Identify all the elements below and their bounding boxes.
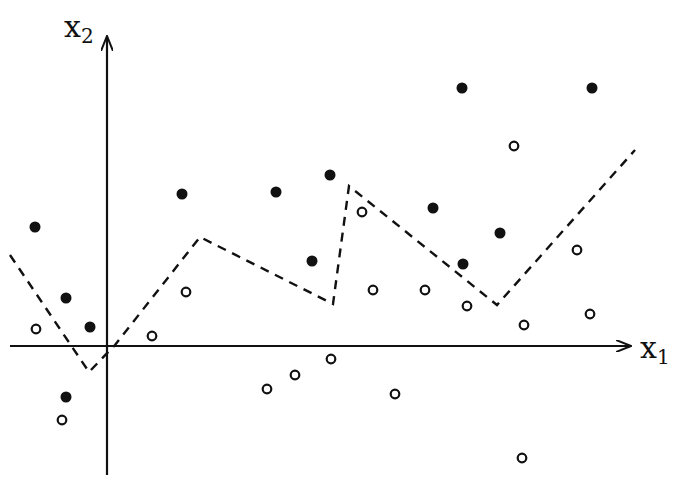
open-class-points xyxy=(32,142,595,463)
x1-axis-label: x1 xyxy=(640,333,670,367)
open-point xyxy=(510,142,519,151)
open-point xyxy=(573,246,582,255)
decision-boundary xyxy=(10,150,635,372)
filled-point xyxy=(61,293,72,304)
x2-axis-label: x2 xyxy=(64,12,94,46)
open-point xyxy=(291,371,300,380)
open-point xyxy=(148,332,157,341)
open-point xyxy=(58,416,67,425)
open-point xyxy=(263,385,272,394)
filled-point xyxy=(271,187,282,198)
filled-point xyxy=(85,322,96,333)
filled-point xyxy=(307,256,318,267)
open-point xyxy=(421,286,430,295)
open-point xyxy=(520,321,529,330)
open-point xyxy=(32,325,41,334)
open-point xyxy=(369,286,378,295)
filled-class-points xyxy=(30,83,598,403)
filled-point xyxy=(325,170,336,181)
open-point xyxy=(463,302,472,311)
open-point xyxy=(518,454,527,463)
filled-point xyxy=(457,83,468,94)
filled-point xyxy=(458,259,469,270)
filled-point xyxy=(177,189,188,200)
open-point xyxy=(327,355,336,364)
filled-point xyxy=(587,83,598,94)
plot-canvas xyxy=(0,0,677,491)
open-point xyxy=(586,310,595,319)
scatter-figure: x2 x1 xyxy=(0,0,677,491)
open-point xyxy=(391,390,400,399)
filled-point xyxy=(30,222,41,233)
filled-point xyxy=(495,228,506,239)
open-point xyxy=(358,208,367,217)
filled-point xyxy=(428,203,439,214)
open-point xyxy=(182,288,191,297)
filled-point xyxy=(61,392,72,403)
